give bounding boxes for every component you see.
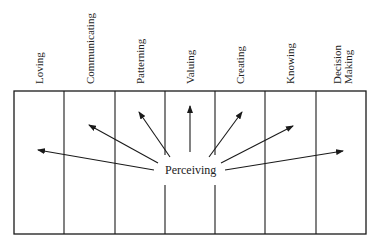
column-label-creating: Creating: [235, 46, 246, 84]
column-label-knowing: Knowing: [285, 43, 296, 84]
arrow-to-knowing: [221, 126, 293, 163]
arrow-to-loving: [38, 150, 154, 170]
column-label-patterning: Patterning: [135, 39, 146, 84]
perceiving-diagram: Loving Communicating Patterning Valuing …: [0, 0, 376, 249]
column-label-loving: Loving: [34, 52, 45, 84]
column-label-valuing: Valuing: [185, 50, 196, 84]
column-label-decision-making: Decision Making: [332, 45, 354, 84]
column-label-communicating: Communicating: [85, 13, 96, 84]
center-label-perceiving: Perceiving: [163, 163, 218, 178]
arrow-to-creating: [209, 112, 242, 157]
arrow-to-communicating: [89, 125, 158, 163]
arrow-to-decision-making: [225, 151, 343, 170]
diagram-canvas: [0, 0, 376, 249]
